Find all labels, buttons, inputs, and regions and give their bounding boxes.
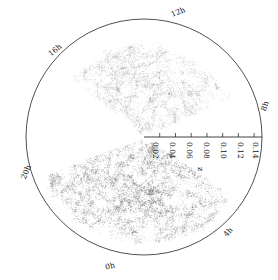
plot-background (0, 0, 278, 280)
radial-tick-label: 0.12 (236, 142, 245, 159)
radial-tick-label: 0.06 (185, 142, 194, 159)
redshift-survey-figure: 0.020.040.060.080.100.120.14 12h16h20h0h… (0, 0, 278, 280)
radial-tick-label: 0.08 (202, 142, 211, 159)
polar-plot-canvas (0, 0, 278, 280)
radial-tick-label: 0.14 (251, 142, 260, 159)
radial-tick-label: 0.04 (168, 142, 177, 159)
radial-tick-label: 0.02 (151, 142, 160, 159)
radial-axis-title: z (196, 167, 206, 171)
radial-tick-label: 0.10 (219, 142, 228, 159)
